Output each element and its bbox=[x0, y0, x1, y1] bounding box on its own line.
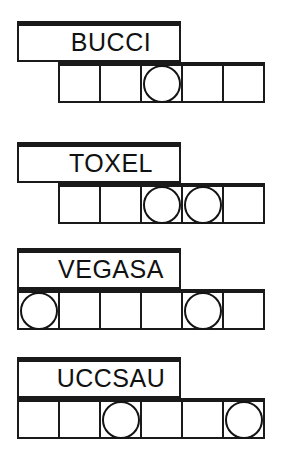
answer-cell[interactable] bbox=[142, 402, 183, 437]
answer-cell[interactable] bbox=[60, 293, 101, 328]
answer-cell[interactable] bbox=[101, 187, 142, 222]
answer-grid-1 bbox=[58, 62, 265, 103]
circle-marker-icon bbox=[184, 186, 222, 224]
answer-cell[interactable] bbox=[101, 293, 142, 328]
answer-cell[interactable] bbox=[101, 402, 142, 437]
circle-marker-icon bbox=[225, 401, 263, 439]
answer-cell[interactable] bbox=[19, 293, 60, 328]
answer-cell[interactable] bbox=[224, 293, 263, 328]
answer-cell[interactable] bbox=[60, 66, 101, 101]
answer-cell[interactable] bbox=[101, 66, 142, 101]
answer-cell[interactable] bbox=[142, 66, 183, 101]
answer-cell[interactable] bbox=[19, 402, 60, 437]
circle-marker-icon bbox=[184, 292, 222, 330]
answer-cell[interactable] bbox=[60, 402, 101, 437]
answer-grid-2 bbox=[58, 183, 265, 224]
word-banner-3: VEGASA bbox=[17, 248, 181, 289]
answer-cell[interactable] bbox=[183, 187, 224, 222]
word-label-3: VEGASA bbox=[19, 257, 173, 282]
worksheet-canvas: BUCCI TOXEL VEGASA bbox=[0, 0, 286, 460]
circle-marker-icon bbox=[20, 292, 58, 330]
word-banner-4: UCCSAU bbox=[17, 357, 181, 398]
answer-grid-4 bbox=[17, 398, 265, 439]
answer-cell[interactable] bbox=[60, 187, 101, 222]
word-label-4: UCCSAU bbox=[19, 366, 173, 391]
word-label-1: BUCCI bbox=[19, 30, 173, 55]
answer-cell[interactable] bbox=[183, 402, 224, 437]
answer-cell[interactable] bbox=[224, 402, 263, 437]
circle-marker-icon bbox=[102, 401, 140, 439]
word-banner-2: TOXEL bbox=[17, 142, 181, 183]
answer-cell[interactable] bbox=[142, 293, 183, 328]
answer-cell[interactable] bbox=[142, 187, 183, 222]
circle-marker-icon bbox=[143, 186, 181, 224]
answer-cell[interactable] bbox=[183, 66, 224, 101]
answer-cell[interactable] bbox=[224, 66, 263, 101]
answer-grid-3 bbox=[17, 289, 265, 330]
word-label-2: TOXEL bbox=[19, 151, 173, 176]
answer-cell[interactable] bbox=[224, 187, 263, 222]
word-banner-1: BUCCI bbox=[17, 21, 181, 62]
circle-marker-icon bbox=[143, 65, 181, 103]
answer-cell[interactable] bbox=[183, 293, 224, 328]
